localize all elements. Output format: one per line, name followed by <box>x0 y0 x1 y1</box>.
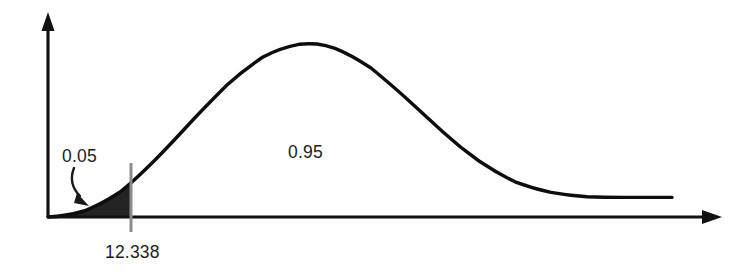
critical-region-shading <box>48 183 131 217</box>
distribution-chart: 0.05 0.95 12.338 <box>0 0 748 273</box>
x-axis-arrowhead-icon <box>702 210 722 224</box>
alpha-area-label: 0.05 <box>62 146 97 166</box>
confidence-area-label: 0.95 <box>288 142 323 162</box>
annotation-arrow-curve <box>72 168 80 196</box>
chi-square-figure: 0.05 0.95 12.338 <box>0 0 748 273</box>
annotation-arrowhead-icon <box>74 193 89 206</box>
y-axis-arrowhead-icon <box>42 12 55 31</box>
distribution-curve <box>48 44 672 217</box>
critical-value-label: 12.338 <box>105 242 160 262</box>
